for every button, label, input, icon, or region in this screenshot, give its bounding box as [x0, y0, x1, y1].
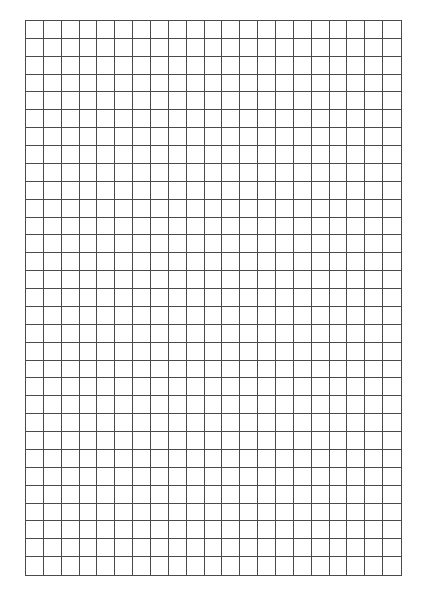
grid-cell	[312, 200, 330, 218]
grid-cell	[133, 128, 151, 146]
grid-cell	[62, 539, 80, 557]
grid-cell	[222, 57, 240, 75]
grid-cell	[276, 414, 294, 432]
grid-cell	[44, 128, 62, 146]
grid-cell	[169, 289, 187, 307]
grid-cell	[133, 110, 151, 128]
grid-cell	[44, 307, 62, 325]
grid-cell	[258, 21, 276, 39]
grid-cell	[187, 110, 205, 128]
grid-cell	[97, 486, 115, 504]
grid-cell	[62, 307, 80, 325]
grid-cell	[187, 146, 205, 164]
grid-cell	[330, 92, 348, 110]
grid-cell	[240, 325, 258, 343]
grid-cell	[151, 164, 169, 182]
grid-cell	[62, 92, 80, 110]
grid-cell	[44, 325, 62, 343]
grid-cell	[151, 182, 169, 200]
grid-cell	[62, 57, 80, 75]
grid-cell	[62, 468, 80, 486]
grid-cell	[26, 253, 44, 271]
grid-cell	[62, 450, 80, 468]
grid-cell	[222, 486, 240, 504]
grid-cell	[151, 218, 169, 236]
grid-cell	[62, 164, 80, 182]
grid-cell	[258, 432, 276, 450]
grid-cell	[383, 218, 401, 236]
grid-cell	[97, 432, 115, 450]
grid-cell	[187, 361, 205, 379]
grid-cell	[312, 307, 330, 325]
grid-cell	[347, 361, 365, 379]
grid-cell	[222, 557, 240, 575]
grid-cell	[347, 396, 365, 414]
grid-cell	[62, 253, 80, 271]
grid-cell	[80, 21, 98, 39]
grid-cell	[276, 289, 294, 307]
grid-cell	[205, 486, 223, 504]
grid-cell	[133, 361, 151, 379]
grid-cell	[26, 325, 44, 343]
grid-cell	[240, 414, 258, 432]
grid-cell	[258, 271, 276, 289]
grid-cell	[347, 539, 365, 557]
grid-cell	[365, 218, 383, 236]
grid-cell	[115, 557, 133, 575]
grid-cell	[240, 39, 258, 57]
grid-cell	[187, 128, 205, 146]
grid-cell	[187, 92, 205, 110]
grid-cell	[62, 289, 80, 307]
grid-cell	[294, 75, 312, 93]
grid-cell	[133, 21, 151, 39]
grid-cell	[222, 307, 240, 325]
grid-cell	[240, 521, 258, 539]
grid-cell	[347, 271, 365, 289]
grid-cell	[258, 378, 276, 396]
grid-cell	[26, 504, 44, 522]
grid-cell	[222, 164, 240, 182]
grid-cell	[151, 307, 169, 325]
grid-cell	[383, 504, 401, 522]
grid-cell	[294, 218, 312, 236]
grid-cell	[258, 146, 276, 164]
grid-cell	[80, 128, 98, 146]
grid-cell	[44, 557, 62, 575]
grid-cell	[133, 164, 151, 182]
grid-cell	[187, 253, 205, 271]
grid-cell	[365, 504, 383, 522]
grid-cell	[330, 396, 348, 414]
grid-cell	[330, 486, 348, 504]
grid-cell	[347, 414, 365, 432]
grid-cell	[365, 39, 383, 57]
grid-cell	[347, 557, 365, 575]
grid-cell	[240, 128, 258, 146]
grid-cell	[62, 182, 80, 200]
grid-cell	[62, 414, 80, 432]
grid-cell	[44, 182, 62, 200]
grid-cell	[205, 164, 223, 182]
grid-cell	[258, 343, 276, 361]
grid-cell	[187, 432, 205, 450]
grid-cell	[115, 325, 133, 343]
grid-cell	[62, 343, 80, 361]
grid-cell	[97, 361, 115, 379]
grid-cell	[80, 504, 98, 522]
grid-cell	[133, 343, 151, 361]
grid-cell	[169, 21, 187, 39]
grid-cell	[240, 343, 258, 361]
grid-cell	[205, 75, 223, 93]
grid-cell	[258, 396, 276, 414]
grid-cell	[222, 325, 240, 343]
grid-cell	[222, 396, 240, 414]
grid-cell	[62, 200, 80, 218]
grid-cell	[115, 486, 133, 504]
grid-cell	[383, 343, 401, 361]
grid-cell	[115, 539, 133, 557]
grid-cell	[240, 361, 258, 379]
grid-cell	[26, 521, 44, 539]
grid-cell	[151, 271, 169, 289]
grid-cell	[26, 92, 44, 110]
grid-cell	[115, 128, 133, 146]
grid-cell	[169, 504, 187, 522]
